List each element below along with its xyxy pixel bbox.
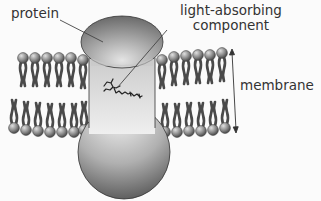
light-absorbing-component-label: light-absorbing component [180,3,282,33]
membrane-thickness-arrow [230,49,239,133]
protein-shape [78,16,170,199]
right-lipid-bilayer [157,48,231,138]
protein-label: protein [11,6,59,21]
left-lipid-bilayer [9,53,90,138]
membrane-label: membrane [240,78,314,93]
light-absorbing-label-line2: component [180,18,282,33]
light-absorbing-label-line1: light-absorbing [180,3,282,18]
